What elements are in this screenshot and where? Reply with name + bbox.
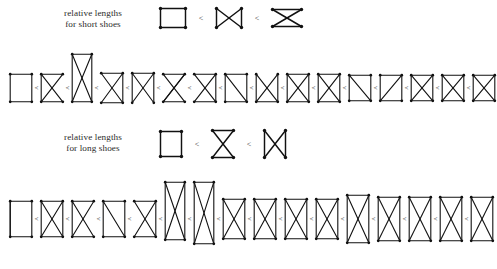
chain-node (39, 199, 65, 239)
chain-node (316, 72, 342, 104)
chain-node (409, 73, 435, 103)
chain-node (130, 71, 156, 105)
chain-node (469, 195, 495, 243)
chain-node (132, 199, 158, 239)
short-shoes-caption-line1: relative lengths (64, 8, 122, 18)
chain-node (345, 193, 371, 245)
chain-node (8, 199, 34, 239)
chain-node (99, 71, 125, 105)
chain-node (39, 72, 65, 104)
chain-node (101, 199, 127, 239)
chain-node (378, 73, 404, 103)
legend-shape-square (158, 129, 184, 159)
chain-node (314, 197, 340, 241)
short-shoes-caption-line2: for short shoes (34, 19, 152, 30)
legend-shape-bowtie (262, 128, 288, 160)
chain-node (221, 197, 247, 241)
chain-node (70, 52, 94, 104)
long-shoes-caption-line2: for long shoes (34, 143, 152, 154)
chain-node (407, 195, 433, 243)
legend-shape-bowtie (214, 6, 244, 30)
chain-node (254, 72, 280, 104)
short-shoes-caption: relative lengths for short shoes (34, 8, 152, 30)
short-shoes-legend: << (158, 6, 304, 30)
chain-node (70, 199, 96, 239)
legend-shape-hourglass (210, 128, 236, 160)
chain-node (8, 72, 34, 104)
chain-node (252, 197, 278, 241)
chain-node (438, 195, 464, 243)
legend-shape-square (158, 6, 188, 30)
chain-node (347, 73, 373, 103)
chain-node (285, 72, 311, 104)
chain-node (471, 73, 497, 103)
long-shoes-legend: << (158, 128, 288, 160)
chain-node (192, 180, 216, 246)
relation-symbol: < (188, 14, 214, 23)
long-shoes-caption: relative lengths for long shoes (34, 132, 152, 154)
long-shoes-caption-line1: relative lengths (64, 132, 122, 142)
chain-node (376, 195, 402, 243)
chain-node (440, 73, 466, 103)
chain-node (163, 180, 187, 242)
chain-node (192, 72, 218, 104)
relation-symbol: < (184, 140, 210, 149)
relation-symbol: < (236, 140, 262, 149)
long-shoes-chain: <<<<<<<<<<<<<<< (8, 186, 495, 252)
chain-node (161, 72, 187, 104)
chain-node (283, 197, 309, 241)
chain-node (223, 72, 249, 104)
relation-symbol: < (244, 14, 270, 23)
short-shoes-chain: <<<<<<<<<<<<<<< (8, 62, 497, 114)
legend-shape-hourglass (270, 7, 304, 29)
